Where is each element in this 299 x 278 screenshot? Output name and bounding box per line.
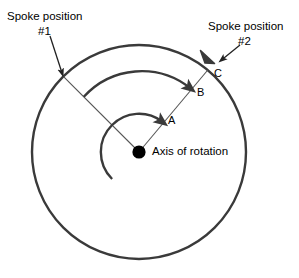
arc-a-label: A (168, 115, 175, 127)
spoke-position-1-number: #1 (38, 25, 51, 37)
arc-b (84, 71, 190, 97)
spoke1-pointer-arrow-icon (50, 36, 62, 74)
diagram-canvas (0, 0, 299, 278)
rotation-diagram: Spoke position #1 Spoke position #2 Axis… (0, 0, 299, 278)
spoke-position-2-number: #2 (238, 35, 251, 47)
spoke-position-2-label: Spoke position (208, 20, 283, 32)
arc-b-label: B (197, 87, 204, 99)
spoke-line-1 (63, 76, 139, 152)
spoke-position-1-label: Spoke position (7, 10, 82, 22)
axis-of-rotation-label: Axis of rotation (152, 145, 228, 157)
spoke2-pointer-arrow-icon (222, 45, 241, 60)
spoke-line-2 (139, 70, 208, 152)
arc-c-label: C (214, 68, 222, 80)
axis-of-rotation-dot-icon (132, 145, 145, 158)
arc-c-arrowhead-icon (201, 51, 215, 64)
